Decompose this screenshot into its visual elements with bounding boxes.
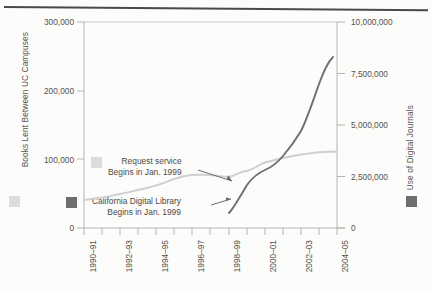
series-line-digital-journals — [229, 57, 333, 213]
left-axis-ticks — [77, 22, 84, 228]
right-axis-ticks — [337, 22, 345, 228]
chart-plot — [0, 0, 431, 291]
chart-figure: Books Lent Between UC Campuses Use of Di… — [0, 0, 431, 291]
x-axis-ticks — [84, 228, 337, 235]
series-line-books-lent — [84, 152, 337, 201]
